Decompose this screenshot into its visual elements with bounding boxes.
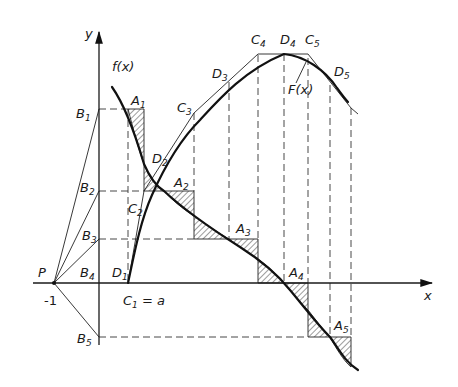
label-d2: D2 [152,151,168,168]
labels: y x P -1 f(x) F(x) B1 B2 B3 B4 B5 A1 A2 … [38,26,432,348]
label-d4: D4 [280,32,296,49]
label-b4: B4 [80,265,95,282]
F-label-leader [296,60,307,83]
graphical-integration-diagram: y x P -1 f(x) F(x) B1 B2 B3 B4 B5 A1 A2 … [0,0,458,387]
pole-rays [54,109,99,337]
label-c5: C5 [305,32,320,49]
f-curve [112,87,358,370]
label-d1: D1 [112,265,128,282]
label-a5: A5 [333,318,349,335]
F-label: F(x) [288,82,313,97]
label-c3: C3 [177,100,192,117]
y-axis-label: y [84,26,93,41]
pole-point [52,281,56,285]
label-a1: A1 [130,93,146,110]
label-c4: C4 [251,32,266,49]
label-b1: B1 [76,106,91,123]
label-c1: C1 = a [123,293,165,310]
label-a2: A2 [173,175,189,192]
hatched-areas [128,109,351,367]
pole-label: P [38,265,46,280]
label-a3: A3 [235,221,251,238]
label-d5: D5 [334,64,350,81]
label-b3: B3 [82,228,97,245]
f-label: f(x) [112,59,134,74]
pole-value: -1 [44,293,57,308]
label-c2: C2 [128,201,143,218]
label-b2: B2 [80,180,95,197]
F-curve [128,54,348,283]
label-b5: B5 [77,331,92,348]
label-d3: D3 [212,66,228,83]
x-axis-label: x [423,288,432,303]
label-a4: A4 [288,265,304,282]
